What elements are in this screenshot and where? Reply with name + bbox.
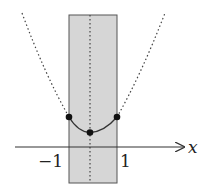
parabola-left-dotted-branch <box>22 13 69 117</box>
tick-label-minus-one: −1 <box>38 151 63 171</box>
tick-label-one: 1 <box>120 151 131 171</box>
point-right-endpoint <box>114 114 121 121</box>
point-vertex <box>87 129 94 136</box>
parabola-right-dotted-branch <box>117 13 165 117</box>
parabola-diagram: −1 1 x <box>0 0 205 186</box>
point-left-endpoint <box>66 114 73 121</box>
x-axis-label: x <box>188 137 198 157</box>
shaded-interval-band <box>69 15 117 183</box>
